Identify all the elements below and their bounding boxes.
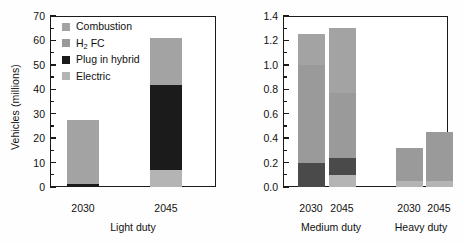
y-tick-minor [283, 125, 287, 126]
y-tick-major [283, 113, 289, 114]
y-tick-label: 10 [0, 157, 45, 169]
legend-label: Electric [76, 71, 110, 82]
y-tick-minor [50, 150, 54, 151]
legend-light-duty: CombustionH2 FCPlug in hybridElectric [62, 19, 140, 85]
legend-label: Plug in hybrid [76, 54, 140, 65]
bar-stack[interactable] [67, 120, 99, 187]
y-tick-major [50, 137, 56, 138]
y-tick-minor [283, 101, 287, 102]
bar-stack[interactable] [396, 148, 423, 187]
legend-swatch-electric-icon [62, 72, 70, 80]
bar-segment-electric [426, 181, 453, 187]
y-tick-minor [50, 174, 54, 175]
legend-label: H2 FC [76, 38, 105, 49]
bar-segment-combustion [67, 120, 99, 184]
y-tick-minor [283, 52, 287, 53]
group-label-medium-duty: Medium duty [301, 221, 361, 233]
legend-item-h2fc[interactable]: H2 FC [62, 36, 140, 51]
bar-segment-h2fc [396, 148, 423, 181]
legend-swatch-hybrid-icon [62, 56, 70, 64]
y-tick-label: 0.4 [232, 132, 278, 144]
bar-segment-h2fc [298, 65, 325, 163]
bar-segment-combustion [329, 28, 356, 93]
y-tick-label: 1.2 [232, 34, 278, 46]
y-tick-label: 0.2 [232, 157, 278, 169]
y-tick-major [50, 162, 56, 163]
x-tick-label: 2045 [427, 202, 450, 214]
y-tick-minor [283, 174, 287, 175]
bar-segment-combustion [298, 34, 325, 65]
y-tick-minor [50, 125, 54, 126]
bar-segment-cng_hybrid [329, 158, 356, 175]
bar-stack[interactable] [329, 28, 356, 187]
y-tick-label: 0 [0, 181, 45, 193]
x-tick-label: 2030 [397, 202, 420, 214]
bar-segment-combustion [150, 38, 182, 84]
legend-item-combustion[interactable]: Combustion [62, 19, 140, 34]
y-tick-major [283, 162, 289, 163]
y-tick-label: 0.0 [232, 181, 278, 193]
bar-segment-h2fc [329, 93, 356, 158]
x-tick-label: 2030 [71, 202, 94, 214]
y-tick-label: 50 [0, 59, 45, 71]
y-tick-major [50, 15, 56, 16]
bar-segment-hybrid [150, 85, 182, 171]
x-tick-label: 2045 [154, 202, 177, 214]
y-tick-label: 1.0 [232, 59, 278, 71]
chart-panel-medium-heavy-duty: Vehicles (millions) 0.00.20.40.60.81.01.… [232, 0, 464, 244]
bar-segment-cng_hybrid [298, 163, 325, 187]
y-tick-label: 20 [0, 132, 45, 144]
legend-item-electric[interactable]: Electric [62, 69, 140, 84]
y-tick-minor [50, 76, 54, 77]
y-tick-minor [283, 150, 287, 151]
y-tick-major [50, 40, 56, 41]
x-tick-label: 2045 [330, 202, 353, 214]
y-tick-major [283, 64, 289, 65]
y-tick-major [50, 186, 56, 187]
legend-swatch-combustion-icon [62, 23, 70, 31]
bar-segment-electric [396, 181, 423, 187]
chart-panel-light-duty: Vehicles (millions) 010203040506070 2030… [0, 0, 232, 244]
y-tick-major [50, 89, 56, 90]
y-tick-label: 30 [0, 108, 45, 120]
y-tick-label: 70 [0, 10, 45, 22]
y-tick-major [50, 113, 56, 114]
y-tick-major [283, 89, 289, 90]
bar-segment-electric [150, 170, 182, 187]
bar-segment-hybrid [67, 184, 99, 187]
y-tick-label: 40 [0, 83, 45, 95]
legend-swatch-h2fc-icon [62, 39, 70, 47]
legend-item-hybrid[interactable]: Plug in hybrid [62, 52, 140, 67]
y-tick-label: 0.6 [232, 108, 278, 120]
y-tick-major [283, 15, 289, 16]
legend-label: Combustion [76, 21, 132, 32]
y-tick-major [283, 137, 289, 138]
y-tick-major [283, 40, 289, 41]
y-tick-label: 60 [0, 34, 45, 46]
bar-segment-electric [329, 175, 356, 187]
y-tick-minor [283, 76, 287, 77]
bar-stack[interactable] [426, 132, 453, 187]
y-tick-minor [50, 28, 54, 29]
y-tick-minor [50, 101, 54, 102]
y-tick-minor [283, 28, 287, 29]
y-tick-label: 0.8 [232, 83, 278, 95]
x-tick-label: 2030 [299, 202, 322, 214]
bar-stack[interactable] [150, 38, 182, 187]
bar-stack[interactable] [298, 34, 325, 187]
bar-segment-h2fc [426, 132, 453, 181]
y-tick-label: 1.4 [232, 10, 278, 22]
group-label-heavy-duty: Heavy duty [395, 221, 448, 233]
y-tick-major [50, 64, 56, 65]
group-label-light-duty: Light duty [110, 221, 156, 233]
figure: Vehicles (millions) 010203040506070 2030… [0, 0, 464, 244]
y-tick-major [283, 186, 289, 187]
y-tick-minor [50, 52, 54, 53]
